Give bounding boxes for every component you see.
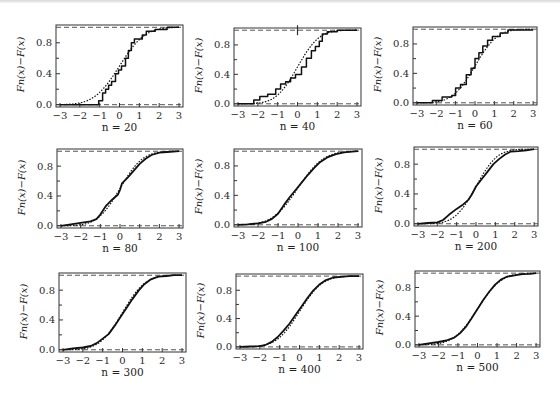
x-tick-label: 2	[512, 229, 518, 240]
y-axis-label: Fn(x)−F(x)	[193, 34, 204, 98]
x-tick-label: −3	[412, 350, 427, 361]
x-tick-label: 1	[315, 230, 321, 241]
x-tick-label: −1	[92, 110, 107, 121]
x-tick-label: 0	[474, 350, 480, 361]
y-axis-label: Fn(x)−F(x)	[373, 153, 384, 217]
x-tick-label: 2	[511, 108, 517, 119]
y-tick-label: 0.8	[214, 39, 230, 50]
x-tick-label: −1	[95, 355, 110, 366]
x-tick-label: 3	[356, 352, 362, 363]
x-tick-label: 1	[494, 350, 500, 361]
plot-frame	[236, 274, 363, 349]
x-tick-label: 0	[473, 229, 479, 240]
x-tick-label: 0	[296, 352, 302, 363]
x-tick-label: 2	[336, 352, 342, 363]
y-axis-label: Fn(x)−F(x)	[15, 33, 26, 97]
y-tick-label: 0.4	[393, 68, 409, 79]
y-tick-label: 0.0	[395, 339, 411, 350]
y-tick-label: 0.8	[36, 37, 52, 48]
x-tick-label: −2	[252, 352, 267, 363]
x-tick-label: 2	[159, 355, 165, 366]
x-tick-label: −1	[448, 108, 463, 119]
x-tick-label: −3	[233, 352, 248, 363]
x-tick-label: −3	[231, 109, 246, 120]
y-axis-label: Fn(x)−F(x)	[16, 155, 27, 219]
x-tick-label: 1	[316, 352, 322, 363]
x-tick-label: −3	[53, 110, 68, 121]
y-tick-label: 0.4	[39, 314, 55, 325]
ecdf-plot-200: 0.00.40.8−3−2−10123	[384, 147, 548, 246]
x-tick-label: −1	[270, 109, 285, 120]
y-tick-label: 0.4	[214, 190, 230, 201]
x-tick-label: −3	[54, 231, 69, 242]
top-edge-band	[0, 0, 560, 3]
x-tick-label: −2	[75, 355, 90, 366]
x-tick-label: 0	[117, 231, 123, 242]
ecdf-plot-400: 0.00.40.8−3−2−10123	[206, 274, 373, 369]
x-tick-label: −1	[271, 230, 286, 241]
y-tick-label: 0.8	[393, 38, 409, 49]
x-tick-label: 3	[176, 110, 182, 121]
y-tick-label: 0.8	[216, 285, 232, 296]
x-tick-label: −3	[410, 108, 425, 119]
y-axis-label: Fn(x)−F(x)	[18, 279, 29, 343]
y-tick-label: 0.4	[36, 68, 52, 79]
y-tick-label: 0.8	[39, 285, 55, 296]
x-tick-label: 2	[335, 230, 341, 241]
y-axis-label: Fn(x)−F(x)	[372, 33, 383, 97]
x-tick-label: 1	[492, 229, 498, 240]
x-tick-label: 0	[295, 230, 301, 241]
x-tick-label: 3	[354, 109, 360, 120]
y-tick-label: 0.8	[37, 161, 53, 172]
x-tick-label: 2	[156, 110, 162, 121]
ecdf-plot-300: 0.00.40.8−3−2−10123	[29, 273, 196, 372]
y-tick-label: 0.0	[214, 98, 230, 109]
ecdf-plot-100: 0.00.40.8−3−2−10123	[204, 149, 372, 247]
x-tick-label: 3	[531, 229, 537, 240]
y-tick-label: 0.4	[37, 190, 53, 201]
x-tick-label: −3	[56, 355, 71, 366]
ecdf-plot-20: 0.00.40.8−3−2−10123	[26, 25, 193, 127]
x-tick-label: 2	[156, 231, 162, 242]
y-tick-label: 0.0	[214, 219, 230, 230]
y-axis-label: Fn(x)−F(x)	[193, 155, 204, 219]
ecdf-plot-60: 0.00.40.8−3−2−10123	[383, 27, 547, 125]
y-tick-label: 0.8	[394, 159, 410, 170]
y-tick-label: 0.0	[39, 344, 55, 355]
y-tick-label: 0.0	[216, 341, 232, 352]
y-tick-label: 0.4	[394, 188, 410, 199]
x-tick-label: −2	[431, 350, 446, 361]
y-axis-label: Fn(x)−F(x)	[374, 276, 385, 340]
x-tick-label: −1	[449, 229, 464, 240]
y-tick-label: 0.8	[214, 160, 230, 171]
x-tick-label: −1	[451, 350, 466, 361]
y-tick-label: 0.0	[394, 218, 410, 229]
x-tick-label: 3	[176, 231, 182, 242]
x-tick-label: −3	[231, 230, 246, 241]
x-tick-label: −2	[250, 109, 265, 120]
y-tick-label: 0.0	[37, 220, 53, 231]
x-tick-label: 0	[294, 109, 300, 120]
x-tick-label: −1	[272, 352, 287, 363]
x-tick-label: 3	[533, 350, 539, 361]
y-axis-label: Fn(x)−F(x)	[195, 278, 206, 342]
y-tick-label: 0.0	[36, 99, 52, 110]
x-tick-label: 1	[491, 108, 497, 119]
x-tick-label: 1	[139, 355, 145, 366]
x-tick-label: 3	[530, 108, 536, 119]
x-tick-label: 0	[119, 355, 125, 366]
x-tick-label: −2	[430, 229, 445, 240]
y-tick-label: 0.0	[393, 97, 409, 108]
x-tick-label: 1	[136, 110, 142, 121]
x-tick-label: 0	[472, 108, 478, 119]
x-tick-label: −2	[73, 231, 88, 242]
ecdf-plot-40: 0.00.40.8−3−2−10123	[204, 28, 371, 126]
y-tick-label: 0.4	[214, 69, 230, 80]
y-tick-label: 0.4	[216, 313, 232, 324]
x-tick-label: −3	[411, 229, 426, 240]
x-tick-label: 3	[355, 230, 361, 241]
y-tick-label: 0.8	[395, 282, 411, 293]
x-tick-label: −1	[93, 231, 108, 242]
y-tick-label: 0.4	[395, 311, 411, 322]
x-tick-label: 2	[513, 350, 519, 361]
